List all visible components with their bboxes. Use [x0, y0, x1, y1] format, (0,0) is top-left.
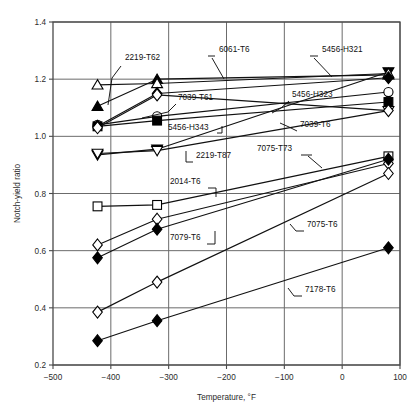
series-2014-t6 — [93, 152, 393, 211]
annotation-label-7039-t6: 7039-T6 — [300, 120, 331, 129]
annotation-label-7178-t6: 7178-T6 — [305, 285, 336, 294]
annotation-label-5456-h323: 5456-H323 — [292, 90, 333, 99]
series-2219-t62 — [92, 68, 394, 89]
data-point-marker — [384, 242, 394, 254]
series-line — [98, 173, 389, 312]
data-point-marker — [152, 315, 162, 327]
chart-container: 0.20.40.60.81.01.21.4−500−400−300−200−10… — [0, 0, 413, 419]
series-line — [98, 111, 389, 154]
series-line — [98, 248, 389, 341]
x-tick-label: −500 — [44, 373, 63, 382]
annotation-leader — [288, 288, 302, 296]
y-tick-label: 0.8 — [35, 190, 47, 199]
annotation-label-2219-t62: 2219-T62 — [125, 53, 160, 62]
series-7039-t61 — [93, 72, 393, 133]
x-tick-label: −400 — [102, 373, 121, 382]
annotation-label-7075-t6: 7075-T6 — [307, 220, 338, 229]
x-tick-label: 0 — [340, 373, 345, 382]
series-line — [98, 95, 389, 128]
annotation-label-7075-t73: 7075-T73 — [257, 144, 292, 153]
axis-ticks: 0.20.40.60.81.01.21.4−500−400−300−200−10… — [35, 18, 408, 382]
data-point-marker — [92, 101, 103, 110]
notch-yield-ratio-chart: 0.20.40.60.81.01.21.4−500−400−300−200−10… — [0, 0, 413, 419]
annotation-leader — [207, 231, 215, 244]
gridlines — [53, 22, 400, 365]
annotation-leader — [310, 56, 332, 77]
data-point-marker — [153, 116, 162, 125]
series-7178-t6 — [93, 242, 393, 347]
annotation-label-7079-t6: 7079-T6 — [170, 233, 201, 242]
data-point-marker — [93, 202, 102, 211]
data-point-marker — [384, 87, 393, 96]
data-point-marker — [152, 89, 162, 101]
annotation-label-6061-t6: 6061-T6 — [219, 45, 250, 54]
data-point-marker — [93, 239, 103, 251]
x-tick-label: −300 — [159, 373, 178, 382]
x-tick-label: −200 — [217, 373, 236, 382]
annotation-leader — [301, 155, 322, 168]
annotation-leader — [208, 56, 224, 79]
series-line — [98, 102, 389, 126]
y-tick-label: 0.2 — [35, 361, 47, 370]
series-7079-t6 — [93, 168, 393, 319]
series-5456-h343 — [93, 98, 393, 131]
x-axis-title: Temperature, °F — [197, 393, 256, 402]
data-point-marker — [93, 335, 103, 347]
y-tick-label: 1.2 — [35, 75, 47, 84]
data-point-marker — [384, 168, 394, 180]
y-tick-label: 1.0 — [35, 132, 47, 141]
annotation-label-2014-t6: 2014-T6 — [170, 177, 201, 186]
annotation-label-2219-t87: 2219-T87 — [196, 151, 231, 160]
series-line — [98, 163, 389, 244]
annotations-group: 2219-T626061-T65456-H3217039-T615456-H32… — [108, 45, 363, 296]
data-point-marker — [152, 223, 162, 235]
x-tick-label: −100 — [275, 373, 294, 382]
y-axis-title: Notch-yield ratio — [13, 163, 22, 223]
annotation-label-7039-t61: 7039-T61 — [178, 93, 213, 102]
data-point-marker — [153, 201, 162, 210]
annotation-leader — [290, 224, 304, 231]
data-point-marker — [152, 276, 162, 288]
series-5456-h323 — [93, 87, 393, 129]
data-point-marker — [93, 252, 103, 264]
x-tick-label: 100 — [393, 373, 407, 382]
y-tick-label: 0.4 — [35, 304, 47, 313]
series-group — [92, 68, 394, 347]
annotation-label-5456-h321: 5456-H321 — [322, 45, 363, 54]
y-tick-label: 1.4 — [35, 18, 47, 27]
annotation-label-5456-h343: 5456-H343 — [168, 123, 209, 132]
annotation-leader — [186, 151, 193, 162]
series-7039-t6 — [93, 89, 393, 134]
y-tick-label: 0.6 — [35, 247, 47, 256]
series-7075-t6 — [93, 153, 393, 264]
